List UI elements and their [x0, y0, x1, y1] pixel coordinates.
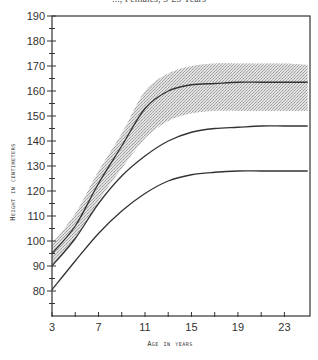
y-tick-label: 190: [27, 10, 45, 22]
shaded-band-area: [52, 63, 308, 266]
y-tick-label: 160: [27, 85, 45, 97]
shaded-band: [52, 63, 308, 266]
plot-frame: [52, 16, 310, 316]
y-tick-label: 120: [27, 185, 45, 197]
y-tick-label: 140: [27, 135, 45, 147]
y-tick-label: 100: [27, 235, 45, 247]
x-tick-label: 3: [49, 321, 55, 333]
y-tick-label: 80: [33, 285, 45, 297]
x-tick-label: 7: [95, 321, 101, 333]
y-tick-label: 130: [27, 160, 45, 172]
x-tick-label: 11: [139, 321, 150, 333]
x-tick-label: 19: [232, 321, 244, 333]
x-tick-label: 15: [185, 321, 197, 333]
y-tick-label: 110: [27, 210, 45, 222]
growth-chart: 8090100110120130140150160170180190371115…: [0, 0, 318, 360]
y-axis-label: Height in centimeters: [9, 107, 17, 257]
y-tick-label: 90: [33, 260, 45, 272]
x-axis-label: Age in years: [100, 340, 240, 348]
y-tick-label: 170: [27, 60, 45, 72]
x-tick-label: 23: [278, 321, 290, 333]
y-tick-label: 150: [27, 110, 45, 122]
y-tick-label: 180: [27, 35, 45, 47]
